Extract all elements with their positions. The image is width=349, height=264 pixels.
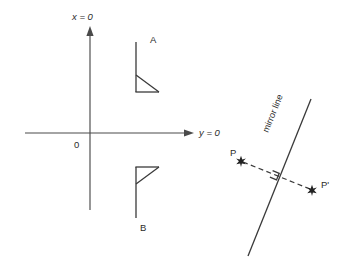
coordinate-axes: x = 0 y = 0 0: [25, 11, 221, 210]
shape-b-group: B: [135, 167, 159, 233]
horizontal-axis-arrowhead: [184, 129, 194, 136]
mirror-line-diagram: mirror line P P': [230, 93, 329, 256]
shape-a-hypotenuse: [136, 75, 159, 92]
horizontal-axis-label-text: y = 0: [198, 127, 221, 138]
shape-b-label: B: [140, 222, 146, 233]
vertical-axis-arrowhead: [86, 26, 93, 36]
reflection-diagram-figure: x = 0 y = 0 0 A B mirror line: [0, 0, 349, 264]
shape-a-label: A: [150, 34, 157, 45]
shape-b-hypotenuse: [136, 167, 159, 184]
point-p-label: P: [230, 147, 236, 158]
origin-label: 0: [74, 139, 79, 150]
mirror-line: [248, 99, 311, 256]
point-p-prime-marker: [307, 185, 317, 196]
point-p-marker: [236, 156, 246, 167]
diagram-canvas: x = 0 y = 0 0 A B mirror line: [0, 0, 349, 264]
mirror-line-label: mirror line: [261, 93, 285, 134]
point-p-prime-label: P': [321, 179, 329, 190]
vertical-axis-label-text: x = 0: [71, 11, 94, 22]
vertical-axis-label: x = 0: [71, 11, 94, 22]
shape-a-group: A: [135, 34, 159, 92]
horizontal-axis-label: y = 0: [198, 127, 221, 138]
